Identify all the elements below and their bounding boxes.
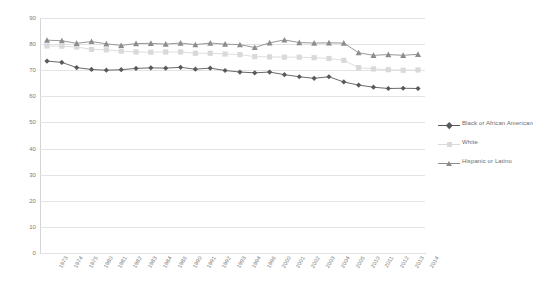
y-axis-tick-label: 90 [4,15,36,21]
x-axis-tick-label: 2001 [295,255,307,269]
data-point-marker [401,86,406,91]
data-point-marker [267,69,272,74]
data-point-marker [178,65,183,70]
data-point-marker [148,50,153,55]
series-black-or-african-american [44,58,420,91]
data-point-marker [163,66,168,71]
y-axis-tick-label: 20 [4,198,36,204]
x-axis-tick-label: 2013 [413,255,425,269]
data-point-marker [59,44,64,49]
data-point-marker [371,66,376,71]
legend-label: Hispanic or Latino [460,158,512,166]
series-line [47,61,418,88]
x-axis-tick-label: 2014 [428,255,440,269]
x-axis-tick-label: 1990 [191,255,203,269]
plot-area [40,18,425,253]
data-point-marker [386,86,391,91]
chart-legend: Black or African AmericanWhiteHispanic o… [438,120,544,177]
series-layer [40,18,425,253]
legend-item[interactable]: White [438,139,544,149]
x-axis-tick-labels: 1973197419751980198119821983198419861990… [40,255,425,295]
data-point-marker [252,70,257,75]
series-line [47,46,418,70]
legend-marker-triangle-icon [438,159,460,168]
x-axis-tick-label: 2011 [384,255,395,269]
x-axis-tick-label: 1983 [146,255,158,269]
x-axis-tick-label: 2000 [280,255,292,269]
data-point-marker [59,60,64,65]
data-point-marker [356,65,361,70]
data-point-marker [252,54,257,59]
legend-label: Black or African American [460,120,533,128]
data-point-marker [193,51,198,56]
y-axis-tick-label: 0 [4,250,36,256]
data-point-marker [356,83,361,88]
legend-item[interactable]: Black or African American [438,120,544,130]
legend-symbol [447,142,452,147]
series-hispanic-or-latino [44,37,421,58]
legend-item[interactable]: Hispanic or Latino [438,158,544,168]
chart-container: 0102030405060708090 19731974197519801981… [0,0,545,296]
x-axis-tick-label: 1994 [250,255,262,269]
x-axis-tick-label: 1973 [57,255,69,269]
y-axis-tick-labels: 0102030405060708090 [0,18,36,253]
x-axis-tick-label: 2003 [324,255,336,269]
x-axis-tick-label: 2002 [310,255,322,269]
data-point-marker [222,51,227,56]
gridline [40,253,425,254]
x-axis-tick-label: 1975 [87,255,99,269]
data-point-marker [282,55,287,60]
series-line [47,40,418,55]
data-point-marker [341,58,346,63]
data-point-marker [356,50,362,56]
data-point-marker [415,67,420,72]
data-point-marker [163,49,168,54]
legend-label: White [460,139,478,147]
data-point-marker [415,86,420,91]
x-axis-tick-label: 1981 [117,255,129,269]
data-point-marker [297,55,302,60]
data-point-marker [74,65,79,70]
y-axis-tick-label: 70 [4,67,36,73]
data-point-marker [326,74,331,79]
x-axis-tick-label: 1982 [132,255,144,269]
data-point-marker [312,76,317,81]
data-point-marker [208,51,213,56]
data-point-marker [119,67,124,72]
x-axis-tick-label: 2004 [339,255,351,269]
data-point-marker [89,39,95,45]
data-point-marker [237,69,242,74]
data-point-marker [148,65,153,70]
data-point-marker [237,52,242,57]
data-point-marker [281,37,287,43]
y-axis-tick-label: 30 [4,172,36,178]
x-axis-tick-label: 1992 [221,255,233,269]
data-point-marker [267,54,272,59]
data-point-marker [297,74,302,79]
data-point-marker [44,43,49,48]
x-axis-tick-label: 2005 [354,255,366,269]
data-point-marker [341,79,346,84]
data-point-marker [133,49,138,54]
data-point-marker [104,47,109,52]
x-axis-tick-label: 1980 [102,255,114,269]
y-axis-tick-label: 40 [4,146,36,152]
data-point-marker [89,67,94,72]
data-point-marker [44,58,49,63]
series-white [44,43,420,72]
data-point-marker [371,85,376,90]
legend-symbol [446,122,452,128]
data-point-marker [401,68,406,73]
x-axis-tick-label: 1984 [161,255,173,269]
data-point-marker [326,56,331,61]
data-point-marker [208,66,213,71]
y-axis-tick-label: 50 [4,119,36,125]
y-axis-tick-label: 60 [4,93,36,99]
x-axis-tick-label: 2012 [399,255,411,269]
data-point-marker [133,66,138,71]
x-axis-tick-label: 1974 [72,255,84,269]
data-point-marker [282,72,287,77]
x-axis-tick-label: 1996 [265,255,277,269]
data-point-marker [119,49,124,54]
data-point-marker [312,55,317,60]
